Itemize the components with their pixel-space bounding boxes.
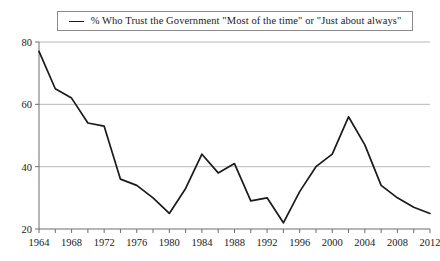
axis-lines [39,42,430,229]
x-tick-label: 2004 [354,237,376,248]
gridlines [39,42,430,167]
x-tick-label: 2000 [322,237,343,248]
y-tick-label: 60 [22,99,33,110]
y-tick-label: 40 [22,162,33,173]
x-tick-label: 1968 [61,237,82,248]
y-axis-tick-labels: 20406080 [22,37,33,235]
x-tick-label: 1992 [257,237,278,248]
x-tick-label: 1972 [94,237,115,248]
x-tick-label: 2008 [387,237,408,248]
x-tick-label: 1980 [159,237,180,248]
x-tick-label: 1988 [224,237,245,248]
x-tick-label: 2012 [420,237,440,248]
x-tick-label: 1964 [29,237,51,248]
chart-container: % Who Trust the Government "Most of the … [0,0,440,261]
x-tick-label: 1976 [126,237,147,248]
line-chart-plot: 20406080 1964196819721976198019841988199… [0,0,440,261]
x-minor-ticks [35,42,430,233]
x-tick-label: 1996 [289,237,310,248]
series-path [39,51,430,222]
data-series-line [39,51,430,222]
x-axis-tick-labels: 1964196819721976198019841988199219962000… [29,237,440,248]
y-tick-label: 80 [22,37,33,48]
x-tick-label: 1984 [191,237,213,248]
y-tick-label: 20 [22,224,33,235]
